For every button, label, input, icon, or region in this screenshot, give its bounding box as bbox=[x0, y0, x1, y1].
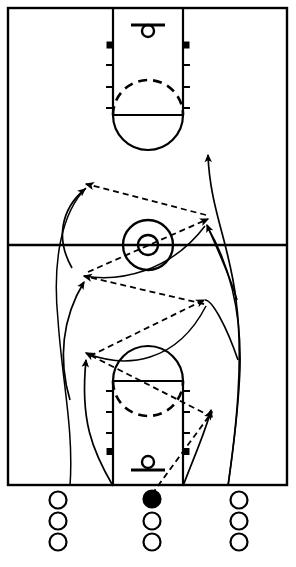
bottom-free-throw-arc-dashed bbox=[113, 381, 183, 416]
pass-segment-6 bbox=[86, 184, 206, 215]
cut-paths-group bbox=[56, 155, 240, 486]
player-left-3[interactable] bbox=[50, 534, 67, 551]
player-left-2[interactable] bbox=[50, 513, 67, 530]
top-key-group bbox=[106, 8, 190, 150]
player-middle-3[interactable] bbox=[144, 534, 161, 551]
player-middle-2[interactable] bbox=[144, 513, 161, 530]
top-free-throw-arc-dashed bbox=[113, 80, 183, 115]
bottom-lane-block-left bbox=[107, 448, 114, 455]
player-right-3[interactable] bbox=[231, 534, 248, 551]
top-free-throw-arc-solid bbox=[113, 115, 183, 150]
player-lines-group bbox=[50, 491, 248, 551]
cut-path-long-left bbox=[56, 188, 86, 486]
pass-lines-group bbox=[84, 184, 212, 494]
top-lane-block-left bbox=[107, 42, 114, 49]
cut-path-center-cross-right bbox=[84, 226, 205, 278]
cut-path-left-weave-2 bbox=[63, 282, 84, 400]
top-hoop-icon bbox=[142, 25, 154, 37]
cut-path-left-weave-3 bbox=[62, 189, 85, 268]
player-left-1[interactable] bbox=[50, 492, 67, 509]
cut-path-center-cross-lower bbox=[88, 306, 206, 361]
player-right-2[interactable] bbox=[231, 513, 248, 530]
court-diagram-canvas bbox=[0, 0, 296, 567]
bottom-free-throw-arc-solid bbox=[113, 346, 183, 381]
pass-segment-3 bbox=[90, 300, 204, 356]
top-lane-block-right bbox=[183, 42, 190, 49]
player-middle-1-ball-handler[interactable] bbox=[144, 491, 161, 508]
pass-segment-2 bbox=[86, 353, 212, 417]
pass-segment-4 bbox=[84, 276, 204, 304]
basketball-court-svg bbox=[0, 0, 296, 567]
cut-path-left-weave-1 bbox=[84, 360, 113, 486]
cut-path-right-weave-2 bbox=[205, 300, 238, 360]
bottom-key-group bbox=[106, 346, 190, 485]
bottom-hoop-icon bbox=[142, 456, 154, 468]
player-right-1[interactable] bbox=[231, 492, 248, 509]
